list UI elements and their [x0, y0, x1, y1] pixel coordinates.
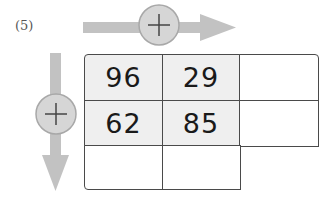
grid-cell-c1-sum[interactable] — [84, 145, 163, 190]
grid-cell-r2c1: 62 — [84, 100, 163, 147]
grid-cell-c2-sum[interactable] — [162, 145, 241, 190]
grid-cell-r2c2: 85 — [162, 100, 241, 147]
grid-cell-r2-sum[interactable] — [239, 100, 319, 147]
grid-cell-r1c1: 96 — [84, 54, 163, 101]
grid-cell-r1c2: 29 — [162, 54, 241, 101]
grid-cell-r1-sum[interactable] — [239, 54, 319, 101]
addition-grid: 96 29 62 85 — [0, 0, 332, 203]
